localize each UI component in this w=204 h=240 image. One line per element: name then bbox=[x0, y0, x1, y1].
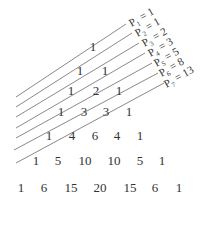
pascal-cell: 1 bbox=[77, 64, 84, 77]
pascal-cell: 1 bbox=[58, 105, 65, 118]
pascal-cell: 1 bbox=[18, 181, 25, 194]
pascal-cell: 3 bbox=[81, 105, 88, 118]
pascal-cell: 1 bbox=[90, 40, 97, 53]
pascal-cell: 4 bbox=[69, 129, 76, 142]
pascal-cell: 10 bbox=[108, 154, 121, 167]
pascal-cell: 1 bbox=[46, 129, 53, 142]
pascal-cell: 5 bbox=[55, 154, 62, 167]
pascal-cell: 5 bbox=[137, 154, 144, 167]
pascal-cell: 3 bbox=[103, 105, 110, 118]
diagonal-line-7 bbox=[16, 83, 164, 163]
pascal-cell: 4 bbox=[114, 129, 121, 142]
pascal-cell: 20 bbox=[94, 181, 107, 194]
pascal-cell: 1 bbox=[159, 154, 166, 167]
pascal-cell: 2 bbox=[93, 84, 100, 97]
pascal-cell: 1 bbox=[137, 129, 144, 142]
pascal-cell: 6 bbox=[92, 129, 99, 142]
pascal-cell: 1 bbox=[102, 64, 109, 77]
pascal-cell: 1 bbox=[33, 154, 40, 167]
pascal-cell: 1 bbox=[126, 105, 133, 118]
pascal-cell: 15 bbox=[65, 181, 78, 194]
pascal-cell: 1 bbox=[176, 181, 183, 194]
pascal-cell: 1 bbox=[68, 84, 75, 97]
pascal-cell: 10 bbox=[79, 154, 92, 167]
pascal-cell: 6 bbox=[41, 181, 48, 194]
pascal-cell: 6 bbox=[152, 181, 159, 194]
pascal-cell: 1 bbox=[116, 84, 123, 97]
pascal-cell: 15 bbox=[124, 181, 137, 194]
